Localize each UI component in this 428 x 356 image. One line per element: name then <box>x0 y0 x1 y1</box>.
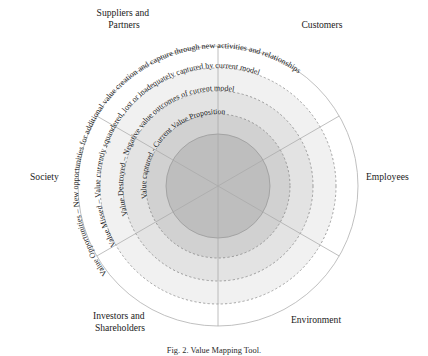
stakeholder-employees-line1: Employees <box>366 171 409 182</box>
stakeholder-customers: Customers <box>301 19 342 30</box>
stakeholder-environment-line1: Environment <box>291 314 341 325</box>
stakeholder-suppliers-and-partners: Suppliers and Partners <box>97 7 152 30</box>
stakeholder-employees: Employees <box>366 171 409 182</box>
stakeholder-customers-line1: Customers <box>301 19 342 30</box>
figure-caption: Fig. 2. Value Mapping Tool. <box>0 345 428 356</box>
stakeholder-environment: Environment <box>291 314 341 325</box>
stakeholder-investors-and-shareholders: Investors and Shareholders <box>93 310 147 333</box>
value-mapping-figure: Value Opportunities – New opportunities … <box>0 0 428 356</box>
stakeholder-suppliers-and-partners-line1: Suppliers and <box>97 7 150 18</box>
value-mapping-wheel: Value Opportunities – New opportunities … <box>0 0 428 356</box>
stakeholder-society: Society <box>30 171 59 182</box>
stakeholder-society-line1: Society <box>30 171 59 182</box>
stakeholder-investors-and-shareholders-line1: Investors and <box>93 310 145 321</box>
stakeholder-suppliers-and-partners-line2: Partners <box>108 19 140 30</box>
stakeholder-investors-and-shareholders-line2: Shareholders <box>95 322 145 333</box>
